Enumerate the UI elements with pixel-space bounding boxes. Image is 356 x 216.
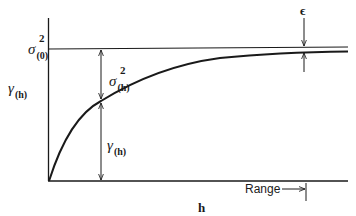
range-label: Range — [245, 183, 280, 195]
semivariogram-diagram — [0, 0, 356, 216]
x-axis-label: h — [198, 201, 205, 214]
covariance-label: σ2(h) — [109, 74, 130, 93]
y-axis-label: γ(h) — [8, 81, 27, 100]
covariance-subscript: (h) — [117, 82, 129, 93]
epsilon-label: ϵ — [300, 4, 305, 17]
semivariance-label: γ(h) — [107, 138, 126, 157]
covariance-symbol: σ — [109, 73, 116, 89]
y-axis-symbol: γ — [8, 80, 14, 96]
sill-superscript: 2 — [39, 33, 45, 44]
sill-symbol: σ — [28, 41, 35, 57]
semivariance-symbol: γ — [107, 137, 113, 153]
sill-subscript: (0) — [36, 50, 48, 61]
semivariance-subscript: (h) — [114, 146, 126, 157]
y-axis-subscript: (h) — [15, 89, 27, 100]
sill-label: σ2(0) — [28, 42, 48, 61]
covariance-superscript: 2 — [120, 65, 126, 76]
sill-line — [48, 47, 348, 49]
semivariogram-curve — [49, 52, 348, 182]
